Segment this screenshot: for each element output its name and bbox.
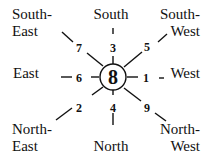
number-south-west: 5 — [144, 40, 150, 54]
center-number: 8 — [108, 66, 118, 88]
number-south: 3 — [110, 41, 116, 55]
number-east: 6 — [76, 71, 82, 85]
outer-dash-north-east — [56, 108, 72, 120]
label-north-east-line2: East — [12, 138, 39, 154]
spoke-south-west — [124, 52, 142, 67]
outer-dash-south-east — [62, 32, 73, 42]
label-west: West — [170, 65, 200, 81]
label-north: North — [94, 138, 129, 154]
label-south-west-line2: West — [170, 23, 200, 39]
number-north-west: 9 — [144, 101, 150, 115]
outer-dash-north-west — [155, 113, 166, 121]
direction-diagram: South- East South South- West East West … — [0, 0, 212, 162]
label-south: South — [93, 6, 129, 22]
label-north-west-line1: North- — [160, 121, 200, 137]
label-south-east-line2: East — [12, 23, 39, 39]
number-south-east: 7 — [76, 41, 82, 55]
spoke-north-east — [92, 87, 103, 95]
label-east: East — [13, 65, 40, 81]
label-north-west-line2: West — [170, 138, 200, 154]
spoke-south-east — [87, 53, 103, 66]
spoke-north-west — [124, 88, 141, 101]
number-north: 4 — [110, 101, 116, 115]
label-north-east-line1: North- — [12, 121, 52, 137]
number-west: 1 — [143, 71, 149, 85]
label-south-east-line1: South- — [12, 6, 52, 22]
outer-dash-south-west — [158, 34, 167, 42]
label-south-west-line1: South- — [160, 6, 200, 22]
number-north-east: 2 — [76, 101, 82, 115]
